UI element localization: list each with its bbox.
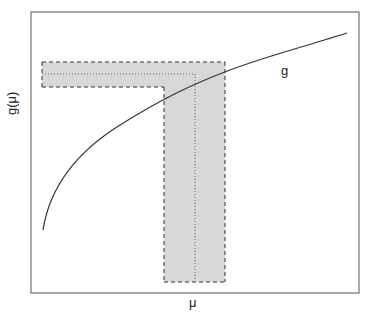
plot [0, 0, 368, 317]
y-axis-label: g(μ) [4, 92, 19, 115]
x-axis-label: μ [189, 295, 197, 310]
curve-label: g [281, 63, 288, 78]
